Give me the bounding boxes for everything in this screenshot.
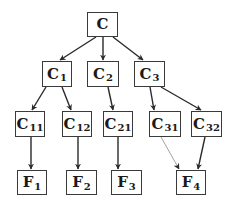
edge-arrow-c2-to-c21 — [108, 87, 113, 110]
edge-arrow-c1-to-c11 — [32, 87, 46, 110]
node-label: C — [152, 117, 164, 132]
edge-arrow-c31-to-f4 — [161, 137, 179, 169]
node-subscript: 21 — [118, 123, 132, 133]
node-subscript: 2 — [106, 73, 113, 83]
node-label: C — [47, 67, 59, 82]
node-f1: F1 — [17, 170, 47, 195]
node-c32: C32 — [191, 111, 222, 137]
node-label: C — [17, 117, 29, 132]
node-subscript: 12 — [77, 123, 91, 133]
tree-diagram: CC1C2C3C11C12C21C31C32F1F2F3F4 — [0, 0, 235, 207]
node-subscript: 31 — [165, 123, 179, 133]
node-c21: C21 — [103, 111, 133, 137]
node-subscript: 1 — [60, 73, 67, 83]
node-label: C — [140, 67, 152, 82]
node-label: C — [193, 117, 205, 132]
node-c3: C3 — [134, 61, 165, 87]
edge-arrow-c-to-c1 — [60, 37, 96, 60]
node-label: F — [182, 175, 193, 190]
node-label: F — [23, 175, 34, 190]
node-c11: C11 — [15, 111, 45, 137]
node-f4: F4 — [176, 170, 206, 195]
node-subscript: 1 — [34, 182, 41, 192]
node-label: F — [72, 175, 83, 190]
node-label: C — [64, 117, 76, 132]
edge-arrow-c3-to-c32 — [161, 87, 201, 110]
node-subscript: 2 — [84, 182, 91, 192]
node-f3: F3 — [111, 170, 142, 195]
node-label: C — [97, 17, 109, 32]
node-label: C — [105, 117, 117, 132]
node-subscript: 3 — [152, 73, 159, 83]
node-subscript: 32 — [206, 123, 220, 133]
edge-arrow-c1-to-c12 — [62, 87, 71, 110]
edge-arrow-c32-to-f4 — [198, 137, 205, 169]
node-c12: C12 — [62, 111, 92, 137]
node-subscript: 3 — [129, 182, 136, 192]
edges — [31, 37, 205, 169]
node-label: C — [93, 67, 105, 82]
node-c31: C31 — [149, 111, 181, 137]
node-label: F — [117, 175, 128, 190]
node-c1: C1 — [42, 61, 72, 87]
node-c2: C2 — [87, 61, 119, 87]
node-subscript: 4 — [193, 182, 200, 192]
node-f2: F2 — [66, 170, 97, 195]
node-c: C — [87, 12, 118, 37]
edge-arrow-c-to-c3 — [113, 37, 143, 60]
edge-arrow-c3-to-c31 — [150, 87, 154, 110]
node-subscript: 11 — [30, 123, 44, 133]
